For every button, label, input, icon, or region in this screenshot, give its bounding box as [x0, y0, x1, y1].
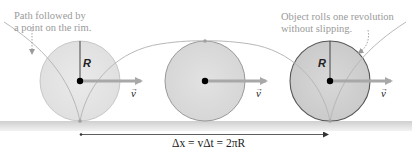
object-note-line2: without slipping. [281, 23, 394, 35]
vector-arrow-start: → [131, 85, 138, 93]
path-note-line1: Path followed by [14, 10, 91, 22]
object-note: Object rolls one revolution without slip… [281, 11, 394, 35]
center-dot-end [327, 78, 333, 84]
path-note: Path followed by a point on the rim. [14, 10, 91, 34]
object-note-line1: Object rolls one revolution [281, 11, 394, 23]
center-dot-middle [202, 78, 208, 84]
rim-point-start [78, 119, 82, 123]
vector-arrow-end: → [381, 85, 388, 93]
rim-point-end [328, 119, 332, 123]
path-note-line2: a point on the rim. [14, 22, 91, 34]
radius-label-start: R [83, 57, 91, 69]
center-dot-start [77, 78, 83, 84]
displacement-equation: Δx = vΔt = 2πR [172, 137, 245, 149]
vector-arrow-middle: → [256, 85, 263, 93]
rim-point-middle [203, 39, 207, 43]
ground-surface [0, 121, 412, 131]
radius-label-end: R [318, 57, 326, 69]
